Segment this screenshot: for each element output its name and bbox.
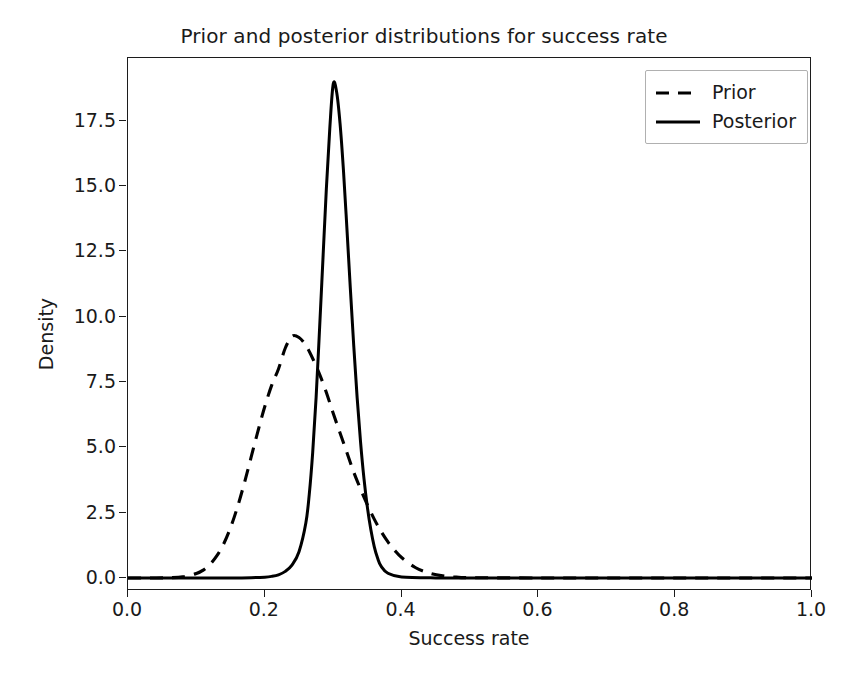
x-tick-label: 0.2 [249, 598, 279, 620]
legend-box: Prior Posterior [645, 70, 808, 144]
y-tick-mark [119, 446, 126, 447]
x-tick-mark [401, 590, 402, 597]
x-tick-mark [537, 590, 538, 597]
x-tick-mark [811, 590, 812, 597]
y-tick-mark [119, 381, 126, 382]
y-tick-label: 15.0 [74, 174, 116, 196]
y-tick-mark [119, 185, 126, 186]
legend-line-posterior-icon [655, 116, 701, 128]
legend-item-prior: Prior [655, 78, 796, 107]
legend-item-posterior: Posterior [655, 107, 796, 136]
figure-canvas: Prior and posterior distributions for su… [0, 0, 848, 676]
y-tick-mark [119, 512, 126, 513]
y-tick-label: 17.5 [74, 109, 116, 131]
y-tick-label: 7.5 [86, 370, 116, 392]
x-tick-label: 0.6 [522, 598, 552, 620]
chart-title: Prior and posterior distributions for su… [0, 24, 848, 48]
y-tick-label: 5.0 [86, 435, 116, 457]
y-tick-label: 2.5 [86, 501, 116, 523]
y-axis-label: Density [35, 274, 57, 394]
y-tick-label: 0.0 [86, 566, 116, 588]
y-tick-label: 10.0 [74, 305, 116, 327]
y-tick-mark [119, 120, 126, 121]
legend-label-prior: Prior [712, 83, 756, 102]
y-tick-mark [119, 250, 126, 251]
y-axis-tick-labels: 0.02.55.07.510.012.515.017.5 [0, 0, 116, 676]
y-tick-mark [119, 577, 126, 578]
x-tick-mark [674, 590, 675, 597]
y-tick-mark [119, 316, 126, 317]
x-tick-mark [264, 590, 265, 597]
y-tick-label: 12.5 [74, 239, 116, 261]
legend-line-prior-icon [655, 87, 701, 99]
x-axis-label: Success rate [127, 627, 811, 649]
legend-label-posterior: Posterior [712, 112, 796, 131]
x-tick-label: 0.0 [112, 598, 142, 620]
x-tick-label: 0.8 [659, 598, 689, 620]
x-tick-mark [127, 590, 128, 597]
curve-posterior [128, 82, 812, 578]
x-tick-label: 1.0 [796, 598, 826, 620]
curve-prior [128, 335, 812, 577]
x-tick-label: 0.4 [385, 598, 415, 620]
